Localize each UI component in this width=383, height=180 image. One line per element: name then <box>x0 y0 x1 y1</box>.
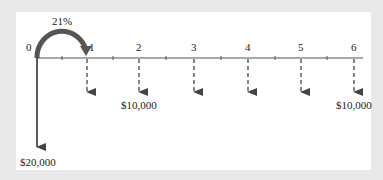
initial-outflow-label: $20,000 <box>20 156 56 168</box>
period-label-6: 6 <box>351 41 357 53</box>
period-label-1: 1 <box>89 41 95 53</box>
period-label-2: 2 <box>136 41 142 53</box>
timeline-graphic <box>0 0 383 180</box>
payment-amount-label-2: $10,000 <box>121 99 157 111</box>
period-label-0: 0 <box>26 41 32 53</box>
payment-amount-label-6: $10,000 <box>336 99 372 111</box>
period-label-4: 4 <box>245 41 251 53</box>
period-label-3: 3 <box>191 41 197 53</box>
interest-rate-label: 21% <box>52 15 72 27</box>
period-label-5: 5 <box>298 41 304 53</box>
interest-arc <box>37 31 86 58</box>
